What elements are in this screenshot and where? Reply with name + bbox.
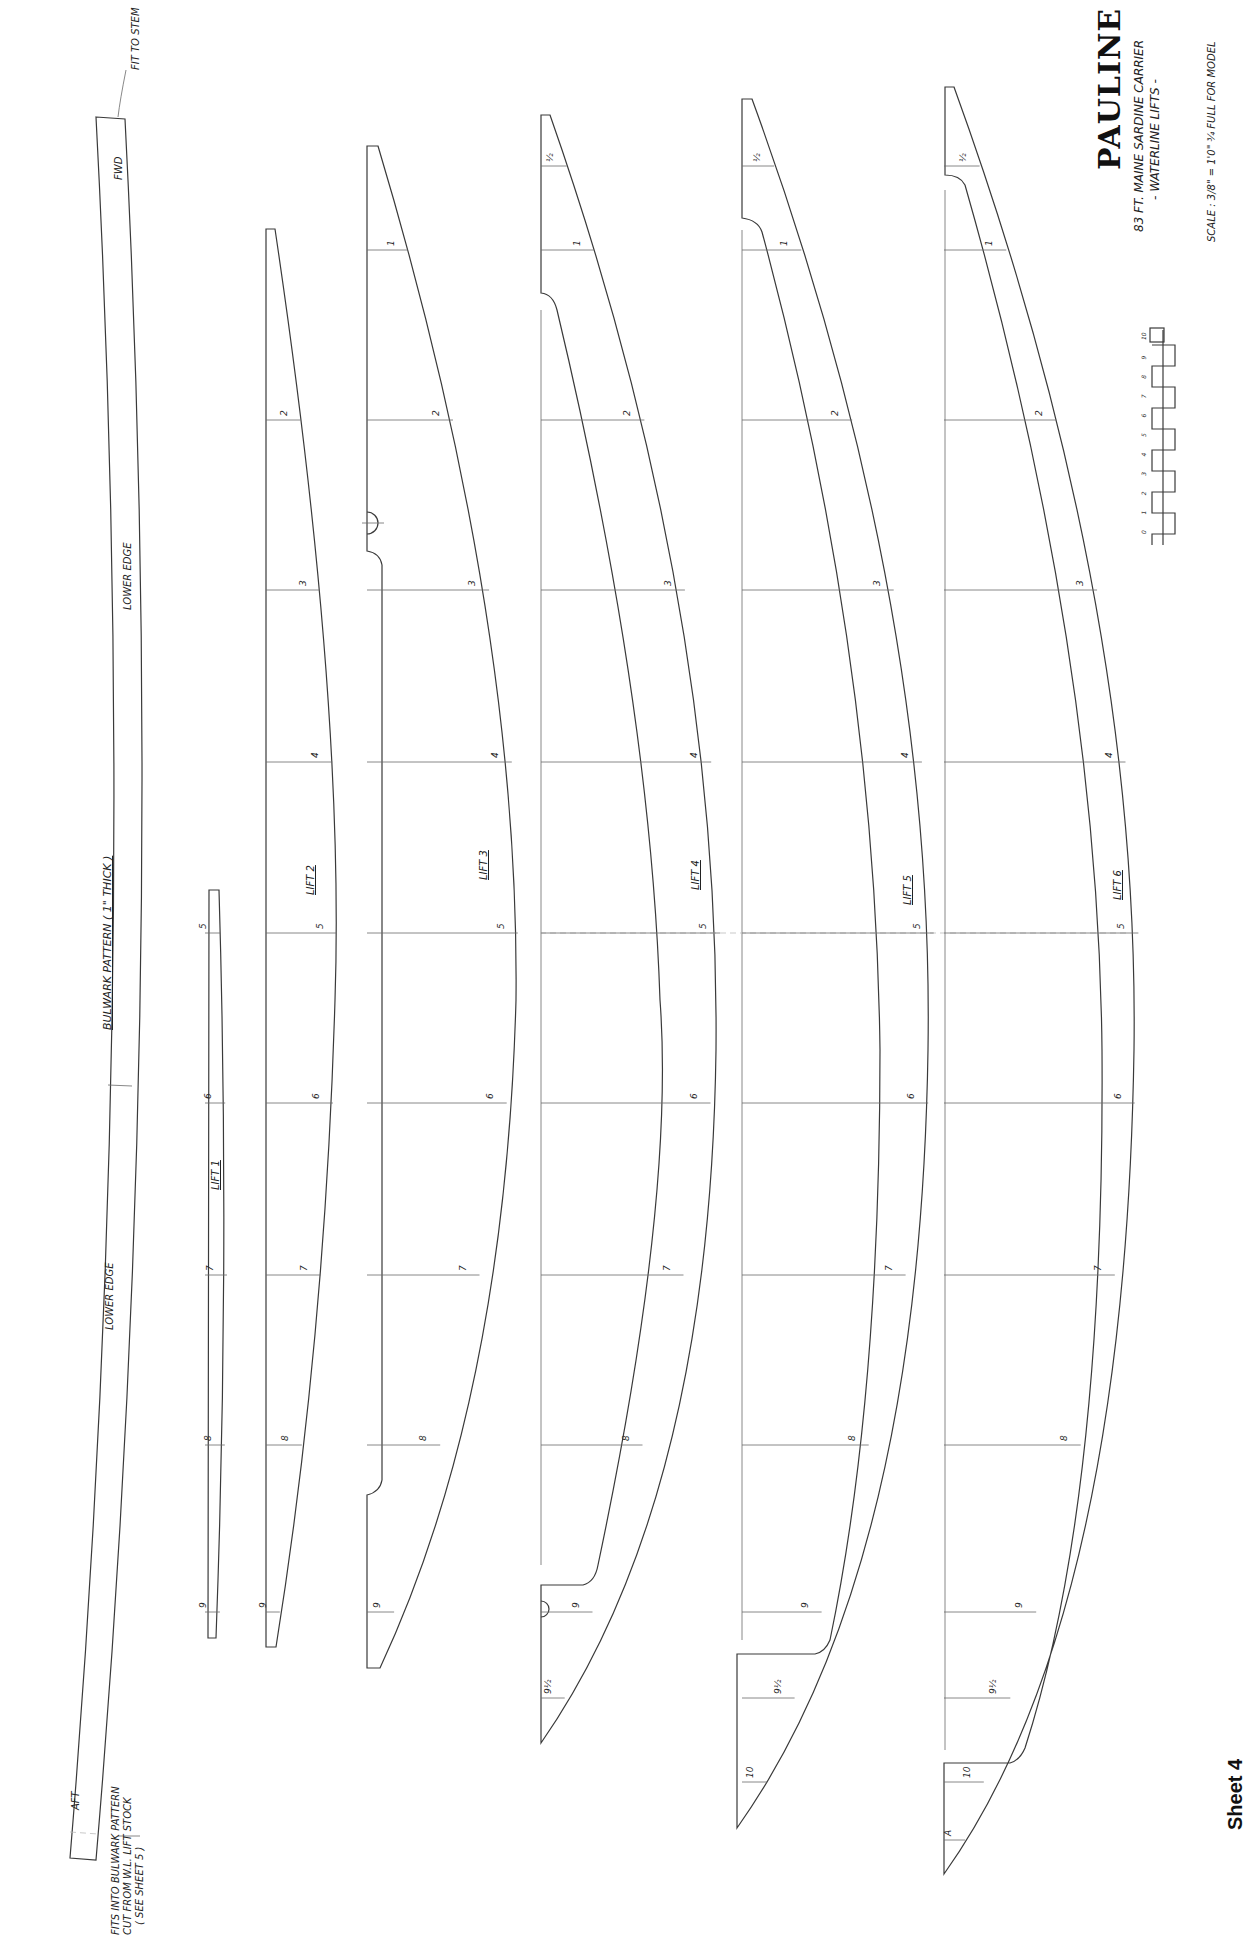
station-number: 10: [962, 1766, 972, 1778]
station-number: 7: [205, 1265, 215, 1271]
station-number: 9: [372, 1602, 382, 1608]
scale-note: SCALE : 3/8" = 1'0" ¾ FULL FOR MODEL: [1206, 41, 1218, 242]
scale-tick-label: 2: [1140, 491, 1147, 495]
station-number: 3: [663, 580, 673, 586]
station-number: 2: [431, 410, 441, 416]
station-number: 5: [315, 923, 325, 929]
scale-tick-label: 8: [1140, 375, 1147, 379]
station-number: 8: [203, 1435, 213, 1441]
scale-tick-label: 1: [1140, 511, 1147, 515]
scale-tick-label: 6: [1140, 414, 1147, 418]
station-number: 2: [279, 410, 289, 416]
station-number: 1: [572, 240, 582, 246]
station-number: 10: [745, 1766, 755, 1778]
stem-note: FIT TO STEM: [130, 7, 142, 70]
aft-note-line1: FITS INTO BULWARK PATTERN: [110, 1786, 122, 1935]
vessel-title: PAULINE: [1092, 8, 1127, 170]
station-number: 7: [299, 1265, 309, 1271]
station-number: 6: [906, 1093, 916, 1099]
station-number: 6: [203, 1093, 213, 1099]
station-number: 4: [310, 752, 320, 758]
lift-1-outline: [208, 890, 224, 1638]
lift-5-label: LIFT 5: [902, 875, 914, 905]
station-number: 9: [800, 1602, 810, 1608]
lift-4-label: LIFT 4: [690, 860, 702, 890]
station-number: 1: [984, 240, 994, 246]
station-number: 2: [830, 410, 840, 416]
subtitle-line1: 83 FT. MAINE SARDINE CARRIER: [1132, 40, 1146, 232]
station-number: 3: [872, 580, 882, 586]
station-number: 3: [1075, 580, 1085, 586]
station-number: 1: [386, 240, 396, 246]
station-number: 4: [1104, 752, 1114, 758]
bulwark-label: BULWARK PATTERN ( 1" THICK ): [102, 856, 114, 1030]
lift-3-outline: [362, 146, 516, 1668]
station-number: 5: [198, 923, 208, 929]
station-number: 9: [258, 1602, 268, 1608]
station-number: 1: [779, 240, 789, 246]
station-number: 6: [311, 1093, 321, 1099]
station-number: A: [943, 1830, 953, 1837]
station-number: 6: [689, 1093, 699, 1099]
scale-tick-label: 5: [1140, 433, 1147, 437]
station-number: 9: [198, 1602, 208, 1608]
station-number: 3: [298, 580, 308, 586]
station-number: 5: [496, 923, 506, 929]
station-number: 8: [847, 1435, 857, 1441]
lift-3-label: LIFT 3: [478, 850, 490, 880]
station-number: 7: [662, 1265, 672, 1271]
station-number: 9½: [543, 1679, 553, 1694]
lift-1-label: LIFT 1: [210, 1160, 222, 1190]
station-number: 4: [689, 752, 699, 758]
station-number: 9: [1014, 1602, 1024, 1608]
station-number: ½: [545, 153, 555, 162]
scale-tick-label: 0: [1140, 530, 1147, 534]
lift-6-outline: [944, 87, 1134, 1874]
station-number: 2: [622, 410, 632, 416]
station-number: 7: [1093, 1265, 1103, 1271]
station-lines: 5678923456789123456789½1234567899½½12345…: [198, 153, 1139, 1840]
aft-note-line2: CUT FROM W.L. LIFT STOCK: [122, 1797, 134, 1935]
scale-tick-label: 10: [1140, 332, 1147, 340]
waterline-lifts-drawing: 5678923456789123456789½1234567899½½12345…: [0, 0, 1248, 1938]
bulwark-fwd-label: FWD: [113, 157, 125, 180]
bulwark-aft-label: AFT: [70, 1791, 82, 1810]
station-number: 4: [900, 752, 910, 758]
scale-tick-label: 3: [1140, 472, 1147, 476]
lower-edge-upper: LOWER EDGE: [122, 542, 134, 610]
station-number: 2: [1034, 410, 1044, 416]
station-number: 8: [418, 1435, 428, 1441]
station-number: ½: [752, 153, 762, 162]
sheet-label: Sheet 4: [1224, 1759, 1247, 1830]
scale-tick-label: 7: [1140, 394, 1147, 398]
station-number: 7: [458, 1265, 468, 1271]
scale-bar: 012345678910: [1140, 328, 1175, 545]
lift-2-outline: [266, 229, 336, 1647]
station-number: 8: [280, 1435, 290, 1441]
station-number: 4: [490, 752, 500, 758]
station-number: 9½: [988, 1679, 998, 1694]
station-number: 8: [621, 1435, 631, 1441]
station-number: 8: [1059, 1435, 1069, 1441]
lift-4-outline: [541, 115, 716, 1743]
station-number: 7: [884, 1265, 894, 1271]
scale-tick-label: 4: [1140, 452, 1147, 456]
station-number: 6: [485, 1093, 495, 1099]
station-number: 3: [467, 580, 477, 586]
station-number: 6: [1113, 1093, 1123, 1099]
station-number: 5: [912, 923, 922, 929]
aft-note-line3: ( SEE SHEET 5 ): [134, 1847, 146, 1925]
station-number: 5: [698, 923, 708, 929]
station-number: 9½: [773, 1679, 783, 1694]
station-number: 9: [571, 1602, 581, 1608]
lift-2-label: LIFT 2: [305, 865, 317, 895]
lower-edge-lower: LOWER EDGE: [104, 1262, 116, 1330]
lift-5-outline: [737, 99, 928, 1828]
station-number: ½: [958, 153, 968, 162]
station-number: 5: [1116, 923, 1126, 929]
scale-tick-label: 9: [1140, 355, 1147, 359]
subtitle-line2: - WATERLINE LIFTS -: [1148, 79, 1162, 200]
lift-6-label: LIFT 6: [1112, 870, 1124, 900]
